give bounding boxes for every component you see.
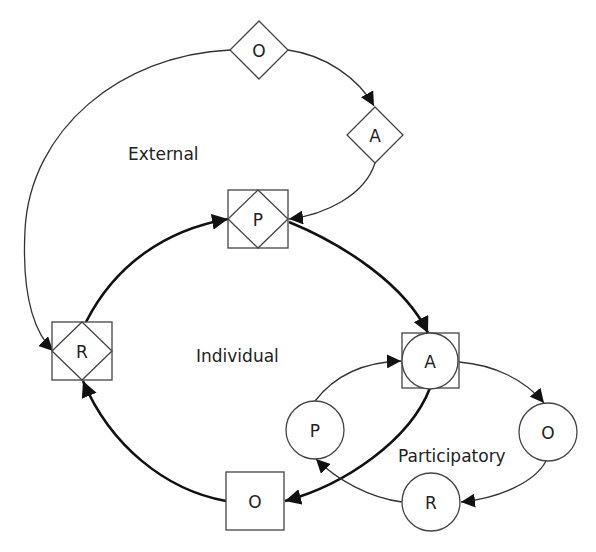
edge-individual-o-to-shared-r (83, 381, 226, 501)
region-label-participatory: Participatory (398, 446, 506, 466)
node-label: R (76, 342, 88, 362)
node-shared-p: P (228, 190, 288, 248)
node-external-a: A (347, 107, 403, 163)
node-label: A (369, 126, 381, 146)
edge-external-o-to-external-a (288, 50, 374, 106)
edge-participatory-o-to-participatory-r (461, 461, 546, 502)
node-participatory-r: R (402, 473, 460, 531)
node-label: O (248, 492, 261, 512)
node-label: P (310, 421, 320, 441)
node-label: O (541, 423, 554, 443)
edge-external-a-to-shared-p (289, 163, 375, 219)
node-label: O (252, 41, 265, 61)
node-shared-a: A (402, 333, 459, 389)
node-label: R (425, 493, 437, 513)
node-individual-o: O (226, 472, 284, 530)
edge-participatory-p-to-shared-a (315, 361, 401, 401)
region-label-individual: Individual (196, 346, 279, 366)
loop-diagram: O A P R A O P O R Extern (0, 0, 596, 552)
node-label: P (253, 210, 263, 230)
region-label-external: External (128, 144, 199, 164)
edge-external-o-to-shared-r (24, 50, 230, 351)
edge-shared-r-to-shared-p (86, 219, 228, 322)
edge-participatory-r-to-participatory-p (316, 459, 402, 502)
node-participatory-p: P (286, 401, 344, 459)
edge-shared-a-to-participatory-o (459, 362, 544, 403)
node-external-o: O (230, 21, 288, 79)
node-label: A (424, 352, 436, 372)
node-shared-r: R (52, 322, 112, 380)
edge-shared-p-to-shared-a (289, 222, 428, 333)
node-participatory-o: O (519, 403, 577, 461)
